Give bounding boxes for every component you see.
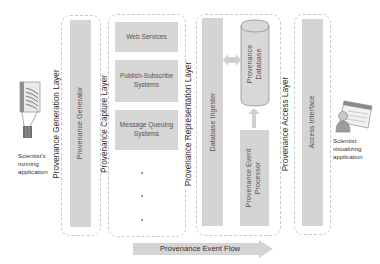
right-actor-label-3: application [333, 153, 363, 161]
web-services-box: Web Services [115, 22, 178, 52]
database-ingester-label: Database Ingester [208, 72, 218, 172]
web-services-label: Web Services [126, 33, 167, 42]
right-actor-label-2: visualizing [333, 145, 363, 153]
proc-label-1: Provenance Event [244, 133, 253, 223]
publish-subscribe-box: Publish-Subscribe Systems [115, 60, 178, 102]
running-application-icon [14, 80, 44, 144]
db-label-1: Provenance [245, 34, 254, 94]
left-actor-label-3: application [18, 168, 48, 176]
mq-label-1: Message Queuing [120, 121, 174, 130]
proc-label-2: Processor [253, 133, 262, 223]
left-actor-label-2: running [18, 160, 48, 168]
provenance-event-processor-label: Provenance Event Processor [244, 133, 266, 223]
right-actor-label-1: Scientist [333, 137, 363, 145]
representation-layer-label: Provenance Representation Layer [184, 49, 196, 199]
up-arrow-icon [248, 108, 260, 128]
provenance-generator-label: Provenance Generator [75, 67, 85, 179]
access-layer-label: Provenance Access Layer [281, 49, 293, 199]
left-actor-label-1: Scientist's [18, 152, 48, 160]
event-flow-label: Provenance Event Flow [140, 243, 260, 255]
ellipsis-dot [141, 195, 143, 197]
message-queuing-box: Message Queuing Systems [115, 110, 178, 150]
access-interface-label: Access Interface [307, 72, 317, 172]
pubsub-label-1: Publish-Subscribe [120, 72, 173, 81]
pubsub-label-2: Systems [134, 81, 159, 90]
scientist-visualizing-icon [334, 98, 374, 134]
provenance-database-label: Provenance Database [245, 34, 267, 94]
db-label-2: Database [254, 34, 263, 94]
mq-label-2: Systems [134, 130, 159, 139]
ellipsis-dot [141, 172, 143, 174]
ellipsis-dot [141, 219, 143, 221]
